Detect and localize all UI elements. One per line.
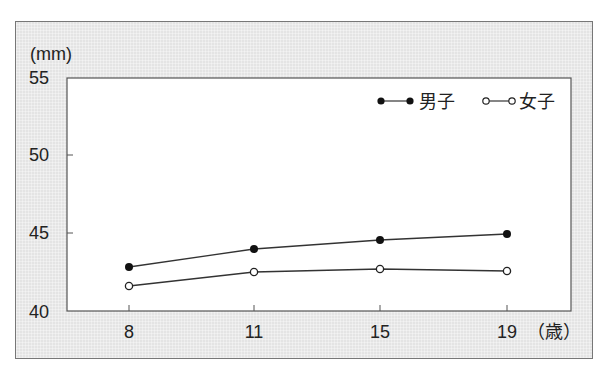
line-chart: 55 50 45 40 (mm) 8 11 15 19 （歳） [0, 0, 609, 374]
y-axis-unit: (mm) [30, 44, 72, 64]
point-male-11 [250, 245, 258, 253]
point-male-8 [125, 263, 133, 271]
legend-label-female: 女子 [519, 91, 555, 112]
point-male-15 [376, 236, 384, 244]
x-tick-19: 19 [497, 322, 517, 342]
plot-area [67, 78, 571, 311]
x-tick-15: 15 [370, 322, 390, 342]
y-tick-50: 50 [29, 145, 49, 165]
y-tick-45: 45 [29, 223, 49, 243]
point-female-15 [376, 265, 383, 272]
x-tick-11: 11 [245, 322, 264, 342]
point-female-8 [125, 282, 132, 289]
x-tick-8: 8 [124, 322, 134, 342]
point-male-19 [503, 230, 511, 238]
point-female-11 [250, 268, 257, 275]
y-tick-55: 55 [29, 68, 49, 88]
x-axis-unit: （歳） [527, 321, 581, 342]
point-female-19 [503, 267, 510, 274]
y-tick-40: 40 [29, 302, 49, 322]
open-circle-icon [483, 98, 489, 104]
open-circle-icon [509, 98, 515, 104]
filled-circle-icon [406, 97, 413, 104]
filled-circle-icon [377, 97, 384, 104]
legend-label-male: 男子 [419, 91, 455, 112]
